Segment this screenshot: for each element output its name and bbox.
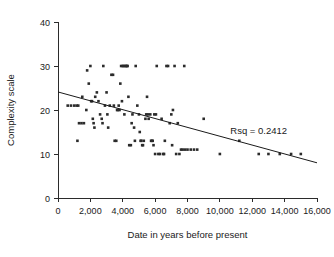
data-point — [189, 148, 192, 151]
data-point — [164, 140, 167, 143]
x-tick-label: 4,000 — [111, 206, 134, 216]
y-tick-label-group: 010203040 — [40, 18, 50, 204]
data-point — [107, 126, 110, 129]
data-point — [186, 148, 189, 151]
y-tick-label: 10 — [40, 150, 50, 160]
data-point — [202, 118, 205, 121]
data-point — [119, 82, 122, 85]
data-point — [130, 122, 133, 125]
x-tick-label-group: 02,0004,0006,0008,00010,00012,00014,0001… — [55, 206, 330, 216]
data-point — [193, 148, 196, 151]
data-point — [219, 153, 222, 156]
data-point — [85, 109, 88, 112]
data-point — [134, 65, 137, 68]
tick-mark-group — [54, 22, 317, 202]
data-point — [147, 113, 150, 116]
data-point — [83, 122, 86, 125]
data-point — [77, 104, 80, 107]
data-point — [136, 104, 139, 107]
x-tick-label: 8,000 — [176, 206, 199, 216]
data-point — [127, 96, 130, 99]
data-point — [140, 140, 143, 143]
data-point — [78, 122, 81, 125]
data-point — [87, 82, 90, 85]
y-tick-label: 0 — [45, 194, 50, 204]
data-point — [138, 131, 141, 134]
data-point — [142, 140, 145, 143]
data-point — [112, 74, 115, 77]
data-point — [290, 153, 293, 156]
data-point — [146, 96, 149, 99]
data-point — [97, 100, 100, 103]
data-point — [196, 148, 199, 151]
data-point — [155, 65, 158, 68]
data-point — [117, 104, 120, 107]
data-point — [155, 113, 158, 116]
x-tick-label: 12,000 — [238, 206, 266, 216]
data-point — [101, 122, 104, 125]
data-point — [181, 148, 184, 151]
data-point — [66, 104, 69, 107]
data-point — [92, 118, 95, 121]
data-point — [89, 65, 92, 68]
data-point — [133, 126, 136, 129]
data-point — [172, 109, 175, 112]
data-point — [183, 65, 186, 68]
data-point — [267, 153, 270, 156]
y-tick-label: 30 — [40, 62, 50, 72]
data-point — [159, 153, 162, 156]
data-point — [163, 153, 166, 156]
data-point — [131, 113, 134, 116]
x-tick-label: 2,000 — [79, 206, 102, 216]
data-point — [93, 126, 96, 129]
data-point — [99, 113, 102, 116]
x-tick-label: 10,000 — [206, 206, 234, 216]
data-point — [152, 144, 155, 147]
data-point — [167, 65, 170, 68]
data-point — [105, 91, 108, 94]
chart-canvas: 010203040 02,0004,0006,0008,00010,00012,… — [0, 0, 334, 257]
rsq-annotation: Rsq = 0.2412 — [230, 125, 287, 136]
data-point — [151, 140, 154, 143]
data-point — [147, 118, 150, 121]
y-tick-label: 20 — [40, 106, 50, 116]
x-tick-label: 0 — [55, 206, 60, 216]
data-point — [154, 153, 157, 156]
data-point — [173, 65, 176, 68]
data-point — [175, 153, 178, 156]
scatter-chart: 010203040 02,0004,0006,0008,00010,00012,… — [0, 0, 334, 257]
data-point — [73, 104, 76, 107]
data-point — [170, 113, 173, 116]
data-point — [106, 113, 109, 116]
x-tick-label: 16,000 — [303, 206, 331, 216]
x-axis-title: Date in years before present — [128, 229, 248, 240]
data-point — [96, 91, 99, 94]
data-point — [142, 144, 145, 147]
data-point — [130, 144, 133, 147]
y-axis-title: Complexity scale — [5, 74, 16, 146]
data-point — [300, 153, 303, 156]
data-point — [171, 144, 174, 147]
data-point — [121, 100, 124, 103]
data-point-group — [66, 65, 302, 156]
data-point — [184, 148, 187, 151]
y-tick-label: 40 — [40, 18, 50, 28]
data-point — [257, 153, 260, 156]
data-point — [94, 96, 97, 99]
data-point — [115, 140, 118, 143]
data-point — [134, 140, 137, 143]
data-point — [92, 122, 95, 125]
data-point — [86, 69, 89, 72]
data-point — [144, 118, 147, 121]
data-point — [102, 65, 105, 68]
x-tick-label: 14,000 — [271, 206, 299, 216]
data-point — [123, 113, 126, 116]
data-point — [80, 122, 83, 125]
data-point — [70, 104, 73, 107]
data-point — [81, 96, 84, 99]
data-point — [76, 140, 79, 143]
x-tick-label: 6,000 — [144, 206, 167, 216]
data-point — [100, 118, 103, 121]
data-point — [149, 113, 152, 116]
data-point — [126, 65, 129, 68]
